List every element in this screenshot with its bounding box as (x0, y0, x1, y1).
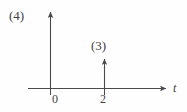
plot-canvas (0, 0, 187, 112)
x-tick-label-0: 0 (52, 93, 58, 105)
x-tick-label-2: 2 (100, 93, 106, 105)
impulse-strength-label-t2: (3) (91, 39, 106, 52)
x-axis-label: t (173, 82, 176, 94)
impulse-plot-figure: (4) (3) 0 2 t (0, 0, 187, 112)
impulse-strength-label-t0: (4) (9, 9, 24, 22)
